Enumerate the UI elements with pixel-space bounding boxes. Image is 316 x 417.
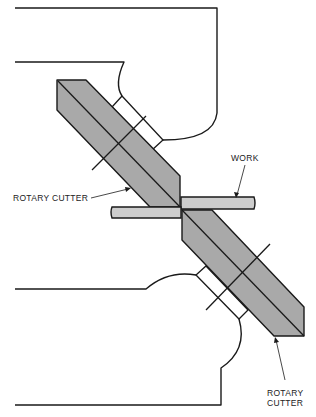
work-left	[111, 207, 181, 218]
label-rotary-cutter-upper: ROTARY CUTTER	[13, 193, 88, 203]
label-rotary-cutter-lower-2: CUTTER	[267, 398, 303, 408]
rotary-shear-diagram: ROTARY CUTTER WORK ROTARY CUTTER	[0, 0, 316, 417]
label-rotary-cutter-lower-1: ROTARY	[267, 388, 303, 398]
work-right	[181, 197, 255, 209]
label-work: WORK	[231, 153, 259, 163]
lower-frame	[15, 274, 241, 405]
